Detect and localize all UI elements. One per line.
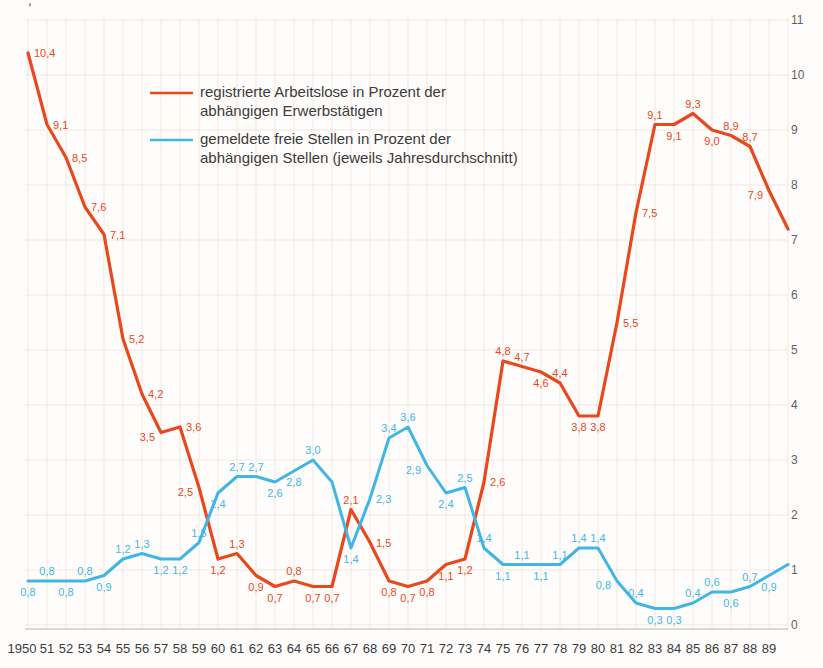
legend: registrierte Arbeitslose in Prozent der … — [150, 83, 518, 166]
point-label-arbeitslose: 5,2 — [129, 333, 144, 345]
x-tick-label: 81 — [610, 641, 624, 656]
point-label-freie-stellen: 2,4 — [438, 498, 453, 510]
corner-crop-mark: , — [28, 0, 32, 8]
point-label-arbeitslose: 4,2 — [148, 388, 163, 400]
point-label-arbeitslose: 1,2 — [457, 564, 472, 576]
point-label-arbeitslose: 0,7 — [324, 592, 339, 604]
x-tick-label: 68 — [363, 641, 377, 656]
x-tick-label: 70 — [401, 641, 415, 656]
y-tick-label: 9 — [791, 123, 798, 137]
point-label-freie-stellen: 2,6 — [267, 487, 282, 499]
x-tick-label: 60 — [211, 641, 225, 656]
point-label-arbeitslose: 8,5 — [72, 152, 87, 164]
point-label-freie-stellen: 0,8 — [77, 565, 92, 577]
point-label-arbeitslose: 9,3 — [685, 98, 700, 110]
point-label-freie-stellen: 1,4 — [571, 532, 586, 544]
point-label-freie-stellen: 3,6 — [400, 411, 415, 423]
point-label-arbeitslose: 8,7 — [742, 131, 757, 143]
point-label-freie-stellen: 0,6 — [704, 576, 719, 588]
x-tick-label: 69 — [382, 641, 396, 656]
point-label-arbeitslose: 5,5 — [623, 317, 638, 329]
point-label-freie-stellen: 1,5 — [191, 527, 206, 539]
y-tick-label: 7 — [791, 233, 798, 247]
point-label-freie-stellen: 2,5 — [457, 472, 472, 484]
x-tick-label: 63 — [268, 641, 282, 656]
x-tick-label: 54 — [97, 641, 111, 656]
x-tick-label: 79 — [572, 641, 586, 656]
point-label-freie-stellen: 2,7 — [229, 461, 244, 473]
x-tick-label: 89 — [762, 641, 776, 656]
x-tick-label: 64 — [287, 641, 301, 656]
point-label-freie-stellen: 1,3 — [134, 538, 149, 550]
point-label-arbeitslose: 4,7 — [514, 351, 529, 363]
point-label-arbeitslose: 0,8 — [286, 565, 301, 577]
x-tick-label: 86 — [705, 641, 719, 656]
point-label-freie-stellen: 0,6 — [723, 597, 738, 609]
legend-text-arbeitslose-line2: abhängigen Erwerbstätigen — [200, 102, 383, 119]
point-label-freie-stellen: 0,8 — [20, 586, 35, 598]
point-label-freie-stellen: 1,2 — [115, 543, 130, 555]
point-label-freie-stellen: 3,4 — [381, 422, 396, 434]
x-tick-label: 74 — [477, 641, 491, 656]
y-tick-label: 0 — [791, 618, 798, 632]
chart-page: 10,49,18,57,67,15,24,23,53,62,51,21,30,9… — [0, 0, 823, 668]
legend-text-arbeitslose-line1: registrierte Arbeitslose in Prozent der — [200, 83, 446, 100]
y-axis-labels: 01234567891011 — [791, 13, 805, 632]
x-tick-label: 62 — [249, 641, 263, 656]
y-tick-label: 10 — [791, 68, 805, 82]
point-label-freie-stellen: 1,1 — [533, 570, 548, 582]
point-label-arbeitslose: 4,6 — [533, 377, 548, 389]
x-tick-label: 78 — [553, 641, 567, 656]
x-tick-label: 65 — [306, 641, 320, 656]
point-label-arbeitslose: 9,0 — [704, 135, 719, 147]
x-tick-label: 88 — [743, 641, 757, 656]
x-axis-labels: 1950515253545556575859606162636465666768… — [8, 641, 777, 656]
point-label-arbeitslose: 7,9 — [748, 189, 763, 201]
x-tick-label: 51 — [40, 641, 54, 656]
point-label-freie-stellen: 3,0 — [305, 444, 320, 456]
point-label-arbeitslose: 3,8 — [590, 421, 605, 433]
point-label-freie-stellen: 2,9 — [406, 464, 421, 476]
point-label-arbeitslose: 4,8 — [495, 345, 510, 357]
x-tick-label: 56 — [135, 641, 149, 656]
point-label-arbeitslose: 0,7 — [267, 592, 282, 604]
point-label-freie-stellen: 0,3 — [666, 614, 681, 626]
point-label-arbeitslose: 9,1 — [666, 130, 681, 142]
x-tick-label: 55 — [116, 641, 130, 656]
point-label-arbeitslose: 2,6 — [490, 476, 505, 488]
x-tick-label: 76 — [515, 641, 529, 656]
point-label-arbeitslose: 0,7 — [400, 592, 415, 604]
point-label-arbeitslose: 2,1 — [343, 494, 358, 506]
point-label-freie-stellen: 0,8 — [596, 579, 611, 591]
x-tick-label: 58 — [173, 641, 187, 656]
x-tick-label: 53 — [78, 641, 92, 656]
x-tick-label: 85 — [686, 641, 700, 656]
y-tick-label: 3 — [791, 453, 798, 467]
legend-text-freie-stellen-line1: gemeldete freie Stellen in Prozent der — [200, 130, 451, 147]
point-label-arbeitslose: 3,5 — [140, 431, 155, 443]
point-label-freie-stellen: 1,4 — [343, 553, 358, 565]
point-label-arbeitslose: 0,8 — [381, 586, 396, 598]
point-label-freie-stellen: 2,8 — [286, 476, 301, 488]
point-label-freie-stellen: 1,1 — [495, 570, 510, 582]
point-label-arbeitslose: 1,5 — [376, 537, 391, 549]
point-label-arbeitslose: 3,6 — [186, 421, 201, 433]
x-tick-label: 57 — [154, 641, 168, 656]
y-tick-label: 1 — [791, 563, 798, 577]
point-label-arbeitslose: 2,5 — [178, 486, 193, 498]
x-tick-label: 66 — [325, 641, 339, 656]
x-tick-label: 1950 — [8, 641, 37, 656]
point-label-arbeitslose: 3,8 — [571, 421, 586, 433]
point-label-arbeitslose: 0,9 — [248, 581, 263, 593]
x-tick-label: 59 — [192, 641, 206, 656]
point-label-freie-stellen: 1,1 — [514, 549, 529, 561]
point-label-freie-stellen: 0,9 — [96, 581, 111, 593]
unemployment-vacancies-chart: 10,49,18,57,67,15,24,23,53,62,51,21,30,9… — [0, 0, 823, 668]
point-label-arbeitslose: 1,1 — [438, 570, 453, 582]
y-tick-label: 6 — [791, 288, 798, 302]
point-label-freie-stellen: 1,4 — [590, 532, 605, 544]
point-label-arbeitslose: 8,9 — [723, 120, 738, 132]
y-tick-label: 2 — [791, 508, 798, 522]
x-tick-label: 67 — [344, 641, 358, 656]
point-label-freie-stellen: 1,2 — [153, 564, 168, 576]
